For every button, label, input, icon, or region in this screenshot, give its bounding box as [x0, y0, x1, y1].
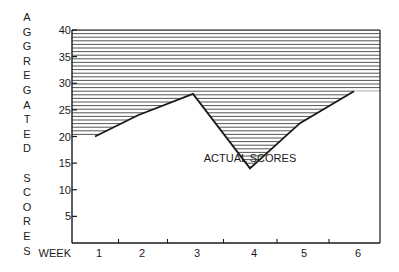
- x-tick-label: 6: [355, 247, 361, 259]
- y-tick-label: 5: [65, 210, 71, 222]
- x-tick-label: 2: [139, 247, 145, 259]
- x-tick-label: 4: [251, 247, 257, 259]
- actual-scores-annotation: ACTUAL SCORES: [204, 152, 297, 164]
- chart-area: 403530252015105123456WEEKACTUAL SCORES: [0, 0, 399, 272]
- x-tick-label: 5: [301, 247, 307, 259]
- y-tick-label: 35: [59, 51, 71, 63]
- x-axis-label: WEEK: [39, 247, 72, 259]
- y-tick-label: 25: [59, 104, 71, 116]
- y-tick-label: 15: [59, 157, 71, 169]
- y-tick-label: 30: [59, 77, 71, 89]
- x-tick-label: 3: [194, 247, 200, 259]
- x-tick-label: 1: [96, 247, 102, 259]
- y-tick-label: 10: [59, 184, 71, 196]
- y-tick-label: 40: [59, 24, 71, 36]
- y-tick-label: 20: [59, 131, 71, 143]
